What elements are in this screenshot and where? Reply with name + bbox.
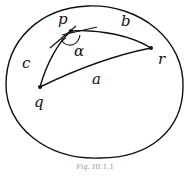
label-r: r — [158, 52, 165, 67]
label-p: p — [58, 12, 68, 27]
vertex-r — [149, 46, 153, 50]
figure-caption: Fig. III.1.1 — [0, 163, 190, 171]
label-a: a — [92, 72, 101, 87]
side-c-arc — [40, 31, 71, 87]
label-alpha: α — [74, 44, 84, 59]
label-b: b — [121, 14, 131, 29]
label-q: q — [34, 95, 44, 110]
sphere-diagram — [0, 0, 190, 176]
label-c: c — [22, 56, 30, 71]
vertex-q — [38, 85, 42, 89]
vertex-p — [69, 29, 73, 33]
